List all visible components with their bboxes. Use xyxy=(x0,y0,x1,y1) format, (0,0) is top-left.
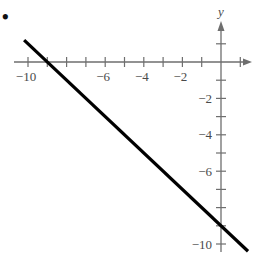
y-tick-label: −2 xyxy=(198,91,212,106)
line-plot: −10−6−4−2 −2−4−6−10 y xyxy=(0,0,257,265)
y-axis: −2−4−6−10 xyxy=(192,21,226,252)
y-tick-label: −4 xyxy=(198,127,212,142)
x-tick-label: −6 xyxy=(96,69,110,84)
y-tick-label: −10 xyxy=(192,237,212,252)
x-tick-label: −4 xyxy=(135,69,149,84)
x-tick-label: −10 xyxy=(16,69,36,84)
x-tick-label: −2 xyxy=(173,69,187,84)
y-tick-label: −6 xyxy=(198,164,212,179)
y-axis-label: y xyxy=(216,4,224,19)
